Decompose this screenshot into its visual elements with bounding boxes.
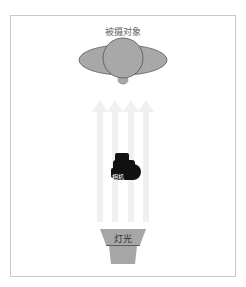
camera-label: 相机 — [112, 172, 124, 181]
arrow-icon — [92, 100, 108, 222]
light-label: 灯光 — [114, 232, 132, 245]
subject-label: 被摄对象 — [105, 25, 141, 38]
arrow-icon — [138, 100, 154, 222]
subject-figure-icon — [79, 38, 167, 84]
